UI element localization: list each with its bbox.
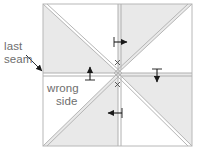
last-seam-label-line1: last xyxy=(4,40,22,52)
diagram-canvas: last seam wrong side xyxy=(0,0,200,151)
wrong-side-label-line2: side xyxy=(56,95,78,107)
wrong-side-label-line1: wrong xyxy=(47,82,79,94)
last-seam-label-line2: seam xyxy=(4,53,33,65)
pinwheel-fold-diagram xyxy=(0,0,200,151)
